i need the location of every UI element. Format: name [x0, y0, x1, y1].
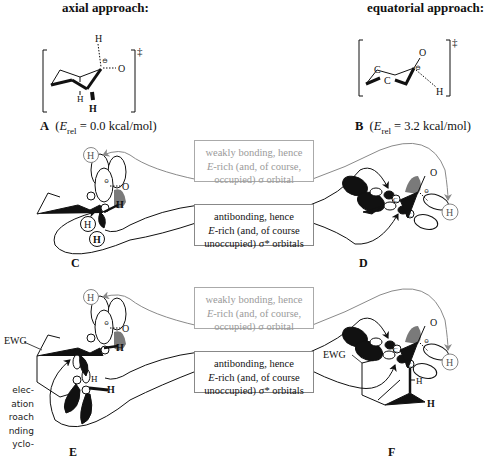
svg-text:‡: ‡	[137, 45, 143, 57]
svg-text:H: H	[116, 342, 124, 353]
svg-text:⊖: ⊖	[424, 338, 429, 344]
svg-text:H: H	[436, 86, 443, 97]
svg-text:C: C	[407, 211, 412, 219]
svg-text:O: O	[430, 317, 437, 328]
atom-H-A-top: H	[95, 33, 102, 44]
svg-text:H: H	[93, 234, 101, 245]
svg-text:H: H	[84, 219, 91, 230]
svg-text:H: H	[416, 376, 423, 386]
svg-text:⊖: ⊖	[424, 188, 429, 194]
svg-text:H: H	[91, 374, 98, 384]
svg-text:H: H	[77, 94, 84, 104]
ewg-label-F: EWG	[323, 349, 346, 360]
arrow-anti-to-D-bottom	[310, 214, 398, 244]
svg-text:H: H	[116, 199, 124, 210]
svg-text:H: H	[446, 207, 453, 218]
structure-D	[339, 172, 458, 232]
svg-text:⊖: ⊖	[104, 178, 109, 184]
svg-text:O: O	[122, 181, 129, 192]
structure-E	[24, 290, 126, 425]
svg-text:⊖: ⊖	[102, 57, 108, 65]
svg-text:⊖: ⊖	[415, 64, 421, 72]
weak-bonding-box-bottom: weakly bonding, hence E-rich (and, of co…	[194, 287, 314, 329]
svg-text:O: O	[430, 167, 437, 178]
svg-text:C: C	[393, 346, 398, 354]
svg-text:O: O	[419, 47, 426, 58]
svg-text:H: H	[87, 292, 94, 303]
svg-text:O: O	[118, 63, 125, 74]
svg-text:H: H	[107, 384, 115, 395]
svg-text:O: O	[122, 323, 129, 334]
weak-bonding-box-top: weakly bonding, hence E-rich (and, of co…	[194, 140, 314, 182]
arrow-anti-loop-C	[54, 212, 199, 254]
svg-text:‡: ‡	[452, 36, 458, 48]
svg-text:H: H	[446, 357, 453, 368]
bracket-left	[43, 50, 47, 112]
ewg-label-E: EWG	[4, 335, 27, 346]
atom-H-C-axial: H	[87, 150, 94, 161]
structure-A	[43, 44, 135, 112]
arrow-anti-to-F-bottom	[310, 365, 395, 389]
structure-F	[339, 323, 458, 405]
svg-text:H: H	[89, 103, 97, 114]
svg-text:C: C	[374, 64, 381, 75]
svg-text:C: C	[384, 75, 391, 86]
antibonding-box-bottom: antibonding, hence E-rich (and, of cours…	[194, 351, 314, 393]
svg-text:H: H	[427, 398, 435, 409]
bracket-left	[359, 40, 363, 96]
svg-text:C: C	[407, 361, 412, 369]
antibonding-box-top: antibonding, hence E-rich (and, of cours…	[194, 204, 314, 246]
svg-text:⊖: ⊖	[104, 320, 109, 326]
bracket-right	[446, 40, 450, 96]
svg-text:C: C	[393, 196, 398, 204]
bracket-right	[131, 50, 135, 112]
